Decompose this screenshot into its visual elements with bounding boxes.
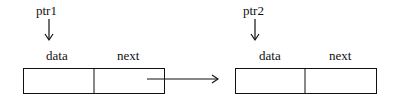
- node-2-next-label: next: [329, 49, 351, 62]
- ptr1-arrow-icon: [45, 19, 53, 40]
- ptr1-label: ptr1: [36, 4, 57, 17]
- node-1-box: [24, 69, 165, 94]
- node-1-data-label: data: [46, 49, 68, 62]
- node-1-next-label: next: [117, 49, 139, 62]
- ptr2-label: ptr2: [243, 4, 264, 17]
- ptr2-arrow-icon: [251, 19, 259, 40]
- next-pointer-arrow-icon: [147, 75, 218, 83]
- node-2-box: [236, 69, 377, 94]
- node-2-data-label: data: [259, 49, 281, 62]
